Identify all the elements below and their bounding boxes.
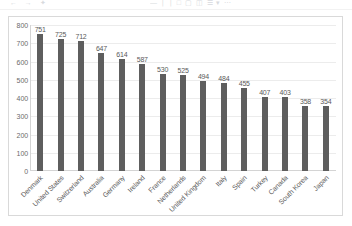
cropped-toolbar[interactable]: ← → ✦ — ∣ ∣ □ ▢ ◫ ☰ ▾ ⋯	[0, 0, 352, 9]
y-axis-tick-label: 400	[17, 95, 28, 102]
bar[interactable]	[221, 83, 227, 171]
bar-value-label: 407	[259, 89, 270, 96]
bar-value-label: 358	[300, 98, 311, 105]
bar[interactable]	[200, 81, 206, 171]
bar-value-label: 587	[137, 56, 148, 63]
bar-value-label: 494	[198, 73, 209, 80]
y-axis-tick-label: 700	[17, 40, 28, 47]
y-axis-tick-label: 200	[17, 131, 28, 138]
category-slot: Italy	[214, 173, 234, 215]
bar-value-label: 614	[116, 51, 127, 58]
bar-slot: 494	[193, 25, 213, 171]
bar-slot: 647	[91, 25, 111, 171]
screenshot-root: ← → ✦ — ∣ ∣ □ ▢ ◫ ☰ ▾ ⋯ 8007006005004003…	[0, 0, 352, 226]
y-axis-tick-label: 0	[24, 168, 28, 175]
plot-area-wrapper: 8007006005004003002001000 75172571264761…	[30, 25, 336, 171]
category-axis: DenmarkUnited StatesSwitzerlandAustralia…	[30, 173, 336, 215]
bar-value-label: 354	[320, 98, 331, 105]
y-axis-tick-label: 100	[17, 149, 28, 156]
bar[interactable]	[78, 41, 84, 171]
category-slot: Spain	[234, 173, 254, 215]
bar-value-label: 712	[75, 33, 86, 40]
bar[interactable]	[98, 53, 104, 171]
toolbar-divider	[0, 9, 352, 10]
bar[interactable]	[37, 34, 43, 171]
category-slot: United Kingdom	[193, 173, 213, 215]
y-axis-tick-label: 300	[17, 113, 28, 120]
bar[interactable]	[180, 75, 186, 171]
bar-value-label: 530	[157, 66, 168, 73]
bar-slot: 354	[316, 25, 336, 171]
bar-slot: 407	[254, 25, 274, 171]
bar[interactable]	[241, 88, 247, 171]
bar-slot: 614	[112, 25, 132, 171]
bar-value-label: 525	[178, 67, 189, 74]
bar-slot: 712	[71, 25, 91, 171]
bar-value-label: 725	[55, 31, 66, 38]
category-slot: Ireland	[132, 173, 152, 215]
bar[interactable]	[282, 97, 288, 171]
bar[interactable]	[302, 106, 308, 171]
toolbar-icon-group-format: — ∣ ∣ □ ▢ ◫ ☰ ▾ ⋯	[150, 0, 231, 6]
bar[interactable]	[139, 64, 145, 171]
y-axis-tick-label: 800	[17, 22, 28, 29]
y-axis-tick-label: 500	[17, 76, 28, 83]
chart-object[interactable]: 8007006005004003002001000 75172571264761…	[8, 16, 343, 216]
bar[interactable]	[58, 39, 64, 171]
bar-value-label: 484	[218, 75, 229, 82]
category-slot: South Korea	[295, 173, 315, 215]
bar-slot: 725	[50, 25, 70, 171]
bar[interactable]	[119, 59, 125, 171]
category-slot: Germany	[112, 173, 132, 215]
y-axis-tick-label: 600	[17, 58, 28, 65]
toolbar-icon-row: ← → ✦	[10, 0, 46, 6]
category-slot: Japan	[316, 173, 336, 215]
bar-value-label: 455	[239, 80, 250, 87]
bar[interactable]	[323, 106, 329, 171]
bar-slot: 484	[214, 25, 234, 171]
bar-slot: 525	[173, 25, 193, 171]
bar-slot: 587	[132, 25, 152, 171]
bar-slot: 403	[275, 25, 295, 171]
bar-slot: 358	[295, 25, 315, 171]
category-axis-label: Spain	[231, 174, 248, 191]
category-axis-label: Italy	[214, 174, 228, 188]
bar-value-label: 751	[35, 26, 46, 33]
bar-slot: 751	[30, 25, 50, 171]
bar[interactable]	[160, 74, 166, 171]
bar-value-label: 647	[96, 45, 107, 52]
bar-series: 7517257126476145875305254944844554074033…	[30, 25, 336, 171]
bar-value-label: 403	[280, 89, 291, 96]
bar-slot: 455	[234, 25, 254, 171]
bar[interactable]	[262, 97, 268, 171]
bar-slot: 530	[152, 25, 172, 171]
